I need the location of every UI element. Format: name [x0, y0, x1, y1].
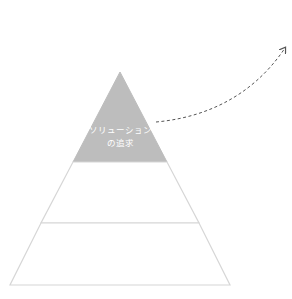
pyramid-diagram: ソリューション の追求 [0, 0, 292, 299]
pyramid-tier-top-label-line2: の追求 [107, 138, 134, 148]
pyramid-tier-top-label-line1: ソリューション [89, 125, 152, 135]
pyramid-tier-top [73, 72, 167, 162]
growth-arrow-icon [156, 48, 285, 122]
pyramid-tier-bottom [10, 223, 230, 285]
pyramid-tier-middle [41, 162, 199, 223]
